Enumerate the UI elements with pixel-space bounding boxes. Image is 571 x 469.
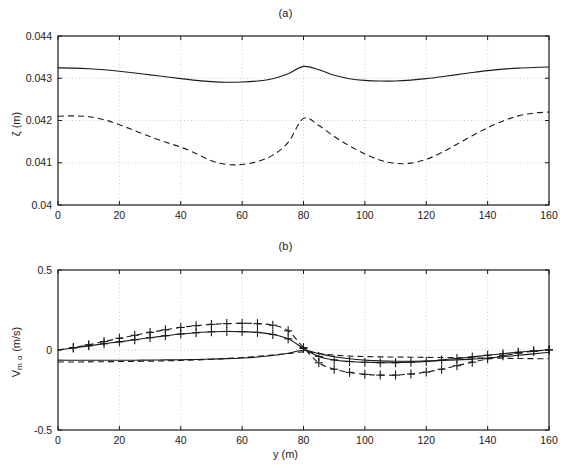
marker-plus: [238, 319, 246, 328]
marker-plus: [177, 323, 185, 332]
x-tick-label: 120: [417, 434, 435, 446]
x-tick-label: 20: [114, 209, 126, 221]
x-tick-label: 160: [540, 209, 558, 221]
y-tick-label: 0.041: [26, 156, 52, 168]
y-tick-label: 0.043: [26, 72, 52, 84]
x-tick-label: 140: [479, 209, 497, 221]
marker-plus: [269, 321, 277, 330]
marker-plus: [361, 358, 369, 367]
x-tick-label: 80: [298, 434, 310, 446]
marker-plus: [392, 358, 400, 367]
marker-plus: [207, 320, 215, 329]
marker-plus: [284, 334, 292, 343]
x-tick-label: 0: [55, 209, 61, 221]
marker-plus: [253, 328, 261, 337]
marker-plus: [422, 368, 430, 377]
x-tick-label: 140: [479, 434, 497, 446]
marker-plus: [346, 368, 354, 377]
marker-plus: [253, 319, 261, 328]
marker-plus: [514, 349, 522, 358]
y-tick-label: -0.5: [34, 424, 52, 436]
marker-plus: [453, 361, 461, 370]
x-tick-label: 80: [298, 209, 310, 221]
panel-b-y-axis-label: Vm α (m/s): [10, 307, 24, 397]
marker-plus: [438, 365, 446, 374]
data-series-solid: [58, 66, 549, 82]
marker-plus: [161, 325, 169, 334]
panel-b-y-axis-subscript: m α: [15, 355, 24, 370]
x-tick-label: 0: [55, 434, 61, 446]
x-tick-label: 40: [175, 209, 187, 221]
marker-plus: [330, 365, 338, 374]
marker-plus: [238, 327, 246, 336]
marker-plus: [392, 371, 400, 380]
figure-container: (a) ζ (m) 0204060801001201401600.040.041…: [0, 0, 571, 469]
marker-plus: [407, 370, 415, 379]
marker-plus: [361, 370, 369, 379]
x-tick-label: 60: [236, 209, 248, 221]
marker-plus: [69, 343, 77, 352]
marker-plus: [223, 319, 231, 328]
panel-b: (b) 020406080100120140160-0.500.5: [0, 235, 571, 469]
x-tick-label: 40: [175, 434, 187, 446]
y-tick-label: 0.044: [26, 30, 52, 42]
marker-plus: [284, 326, 292, 335]
y-tick-label: 0.04: [32, 199, 53, 211]
marker-plus: [407, 358, 415, 367]
marker-plus: [499, 351, 507, 360]
panel-a-plot: 0204060801001201401600.040.0410.0420.043…: [0, 0, 571, 235]
panel-b-y-axis-symbol: V: [10, 370, 22, 377]
panel-b-plot: 020406080100120140160-0.500.5: [0, 235, 571, 469]
x-tick-label: 160: [540, 434, 558, 446]
x-tick-label: 100: [356, 434, 374, 446]
y-tick-label: 0.042: [26, 114, 52, 126]
y-tick-label: 0: [46, 344, 52, 356]
marker-plus: [131, 331, 139, 340]
marker-plus: [269, 330, 277, 339]
marker-plus: [146, 328, 154, 337]
marker-plus: [223, 327, 231, 336]
marker-plus: [315, 358, 323, 367]
panel-a: (a) ζ (m) 0204060801001201401600.040.041…: [0, 0, 571, 235]
panel-b-y-axis-unit: (m/s): [10, 327, 22, 352]
panel-b-x-axis-label: y (m): [0, 448, 571, 460]
x-tick-label: 60: [236, 434, 248, 446]
x-tick-label: 100: [356, 209, 374, 221]
marker-plus: [376, 371, 384, 380]
x-tick-label: 120: [417, 209, 435, 221]
x-tick-label: 20: [114, 434, 126, 446]
marker-plus: [85, 340, 93, 349]
marker-plus: [192, 321, 200, 330]
marker-plus: [376, 358, 384, 367]
y-tick-label: 0.5: [37, 264, 52, 276]
